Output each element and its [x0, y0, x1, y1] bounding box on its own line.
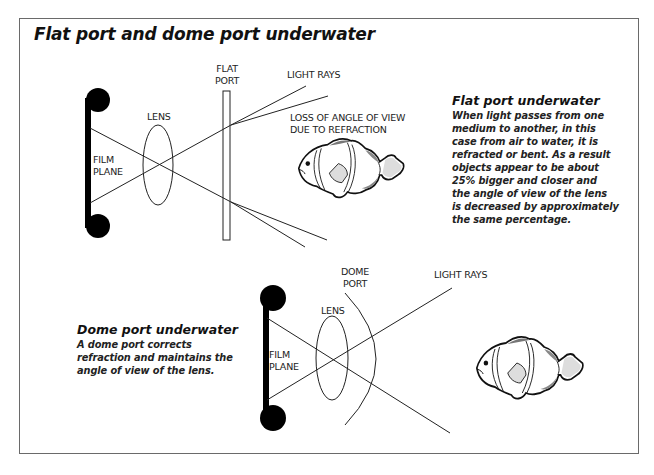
- film-plane-label: FILM PLANE: [93, 154, 123, 177]
- dome-port-description: A dome port corrects refraction and main…: [77, 338, 233, 377]
- film-plane-label: FILM PLANE: [269, 349, 299, 372]
- light-rays-label: LIGHT RAYS: [434, 269, 487, 281]
- film-plane: [85, 98, 91, 228]
- loss-of-angle-label: LOSS OF ANGLE OF VIEW DUE TO REFRACTION: [290, 112, 405, 135]
- lens-label: LENS: [321, 305, 345, 317]
- flat-port-label: FLAT PORT: [210, 63, 244, 86]
- dome-port-shape: [345, 293, 376, 425]
- light-rays-label: LIGHT RAYS: [287, 69, 340, 81]
- clownfish-icon: [299, 139, 404, 198]
- flat-port-heading: Flat port underwater: [452, 93, 600, 108]
- lens-label: LENS: [147, 111, 171, 123]
- dome-port-diagram: [260, 285, 583, 433]
- clownfish-icon: [477, 337, 583, 399]
- flat-port-shape: [223, 91, 230, 240]
- flat-port-description: When light passes from one medium to ano…: [452, 109, 619, 226]
- flat-port-diagram: [85, 86, 404, 247]
- dome-port-heading: Dome port underwater: [77, 322, 238, 337]
- lens-shape: [316, 316, 348, 400]
- dome-port-label: DOME PORT: [335, 266, 375, 289]
